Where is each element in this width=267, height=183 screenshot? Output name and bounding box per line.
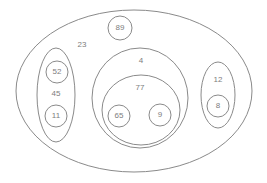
- center-inner-label: 77: [136, 83, 145, 92]
- right-child-label: 8: [216, 101, 221, 110]
- left-group-label: 45: [52, 89, 61, 98]
- top-node-label: 89: [116, 23, 125, 32]
- right-group-label: 12: [214, 75, 223, 84]
- left-child-top-label: 52: [53, 67, 62, 76]
- diagram-canvas: 23 45 4 77 12 89 52 11 65 9 8: [0, 0, 267, 183]
- outer-region-label: 23: [78, 40, 87, 49]
- center-child-right-label: 9: [158, 110, 163, 119]
- left-child-bottom-label: 11: [52, 111, 61, 120]
- set-diagram: 23 45 4 77 12 89 52 11 65 9 8: [0, 0, 267, 183]
- center-child-left-label: 65: [115, 111, 124, 120]
- center-group-label: 4: [139, 56, 144, 65]
